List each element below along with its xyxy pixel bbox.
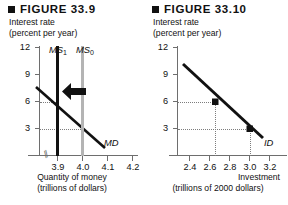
figure-33-9: FIGURE 33.9 Interest rate (percent per y… xyxy=(0,0,144,205)
ms1-supply-line xyxy=(56,46,59,156)
x-axis-title: Quantity of money (trillions of dollars) xyxy=(16,172,128,193)
id-curve-label: ID xyxy=(264,137,273,148)
x-axis-title: Investment (trillions of 2000 dollars) xyxy=(150,172,286,193)
left-arrow-icon xyxy=(62,82,90,102)
ms0-curve-label: MS0 xyxy=(76,44,94,55)
ms1-curve-label: MS1 xyxy=(49,44,67,55)
figure-pair-page: FIGURE 33.9 Interest rate (percent per y… xyxy=(0,0,288,205)
data-point-marker-1 xyxy=(212,99,219,106)
figure-33-10: FIGURE 33.10 Interest rate (percent per … xyxy=(144,0,288,205)
data-point-marker-2 xyxy=(247,126,254,133)
md-curve-label: MD xyxy=(104,137,119,148)
